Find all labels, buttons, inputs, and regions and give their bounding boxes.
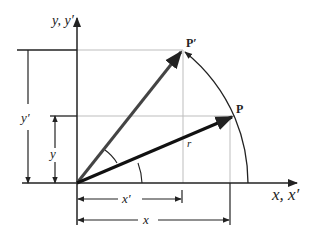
point-p-prime-label: P′ [186, 36, 197, 50]
angle-arc-initial [138, 163, 142, 183]
y-prime-dimension-label: y′ [19, 110, 30, 125]
guide-lines [77, 50, 235, 183]
point-p-label: P [236, 102, 243, 116]
diagram-canvas: y, y′ x, x′ P′ P r y′ y x′ x [0, 0, 314, 238]
circle-arc [235, 118, 248, 183]
vector-p-prime [77, 52, 181, 183]
radius-label: r [187, 137, 192, 149]
rotation-arc-arrow [185, 52, 235, 118]
x-axis-label: x, x′ [271, 185, 300, 204]
y-axis-label: y, y′ [50, 13, 75, 28]
angle-arc-rotation [105, 150, 117, 163]
rotation-diagram: y, y′ x, x′ P′ P r y′ y x′ x [0, 0, 314, 238]
vector-p [77, 117, 232, 183]
x-prime-dimension-label: x′ [121, 191, 131, 206]
x-dimension-label: x [142, 212, 149, 227]
y-dimension-label: y [48, 146, 56, 161]
